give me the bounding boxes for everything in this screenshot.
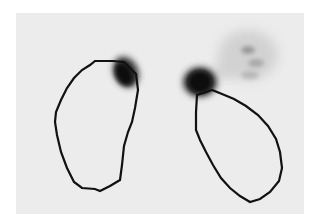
right-hotspot (183, 67, 217, 97)
scan-image (0, 0, 310, 224)
